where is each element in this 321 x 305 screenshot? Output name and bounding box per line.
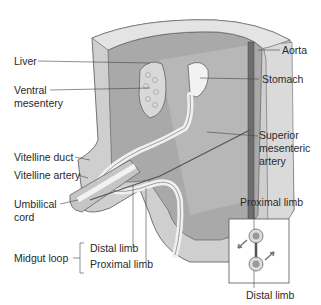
aorta-vessel <box>248 42 254 242</box>
label-umbilical-cord-line2: cord <box>14 211 34 223</box>
label-umbilical-cord: Umbilical <box>14 198 57 210</box>
label-liver: Liver <box>14 55 37 67</box>
label-ventral-mesentery-line2: mesentery <box>14 97 63 109</box>
label-stomach: Stomach <box>262 73 303 85</box>
label-midgut-loop: Midgut loop <box>14 252 68 264</box>
label-ventral-mesentery: Ventral <box>14 84 47 96</box>
label-proximal-limb: Proximal limb <box>90 258 153 270</box>
label-aorta: Aorta <box>282 44 307 56</box>
label-vitelline-duct: Vitelline duct <box>14 151 73 163</box>
inset-label-proximal-limb: Proximal limb <box>240 196 303 208</box>
label-vitelline-artery: Vitelline artery <box>14 169 80 181</box>
inset-box <box>229 219 289 283</box>
label-superior-mesenteric-artery: Superior <box>259 129 299 141</box>
label-sma-line2: mesenteric <box>259 142 310 154</box>
label-distal-limb: Distal limb <box>90 242 138 254</box>
label-sma-line3: artery <box>259 155 286 167</box>
inset-label-distal-limb: Distal limb <box>246 289 294 301</box>
